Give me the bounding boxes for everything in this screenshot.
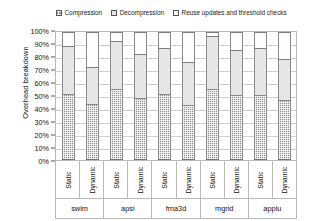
subcategory-row: StaticDynamic	[152, 161, 199, 199]
bar-group-mgrid	[200, 32, 248, 160]
bar-segment-decompression	[134, 55, 147, 99]
plot-area	[55, 31, 297, 161]
x-tick-label-text: Dynamic	[185, 166, 192, 193]
bar-swim-dynamic	[86, 32, 99, 160]
bar-segment-decompression	[86, 68, 99, 105]
bar-segment-decompression	[278, 60, 291, 101]
bar-segment-reuse	[230, 32, 243, 51]
y-tick-label: 20%	[35, 131, 49, 140]
bar-group-apsi	[104, 32, 152, 160]
x-tick-label-text: Static	[257, 171, 264, 189]
bar-segment-compression	[134, 99, 147, 160]
chart-legend: Compression Decompression Reuse updates …	[56, 6, 308, 20]
x-tick-label-dynamic: Dynamic	[177, 161, 200, 198]
y-tick-label: 10%	[35, 144, 49, 153]
category-group-applu: StaticDynamicapplu	[249, 161, 296, 218]
bar-applu-dynamic	[278, 32, 291, 160]
y-tick-label: 70%	[35, 66, 49, 75]
bar-fma3d-dynamic	[182, 32, 195, 160]
stacked-bar-chart: Compression Decompression Reuse updates …	[0, 0, 312, 221]
x-axis-category-band: StaticDynamicswimStaticDynamicapsiStatic…	[55, 161, 297, 219]
bar-segment-decompression	[110, 42, 123, 89]
x-tick-label-text: Static	[209, 171, 216, 189]
x-group-label-fma3d: fma3d	[152, 199, 199, 218]
bar-apsi-dynamic	[134, 32, 147, 160]
bar-segment-reuse	[62, 32, 75, 47]
x-tick-label-dynamic: Dynamic	[273, 161, 296, 198]
y-tick-label: 50%	[35, 92, 49, 101]
x-tick-label-static: Static	[104, 161, 128, 198]
x-tick-label-text: Static	[160, 171, 167, 189]
x-group-label-applu: applu	[249, 199, 296, 218]
bar-segment-reuse	[182, 32, 195, 63]
bar-segment-decompression	[230, 51, 243, 96]
bar-segment-reuse	[158, 32, 171, 49]
subcategory-row: StaticDynamic	[249, 161, 296, 199]
bar-group-swim	[56, 32, 104, 160]
subcategory-row: StaticDynamic	[201, 161, 248, 199]
bar-segment-compression	[182, 106, 195, 160]
legend-item-decompression: Decompression	[111, 10, 164, 16]
bar-segment-compression	[110, 90, 123, 160]
bar-applu-static	[254, 32, 267, 160]
legend-item-compression: Compression	[56, 10, 102, 16]
x-tick-label-static: Static	[56, 161, 80, 198]
bar-segment-compression	[62, 95, 75, 160]
x-tick-label-text: Static	[64, 171, 71, 189]
x-tick-label-text: Dynamic	[233, 166, 240, 193]
bar-segment-decompression	[158, 49, 171, 95]
bar-mgrid-dynamic	[230, 32, 243, 160]
bar-segment-reuse	[278, 32, 291, 60]
x-group-label-apsi: apsi	[104, 199, 151, 218]
subcategory-row: StaticDynamic	[56, 161, 103, 199]
x-group-label-mgrid: mgrid	[201, 199, 248, 218]
bar-swim-static	[62, 32, 75, 160]
legend-label-compression: Compression	[65, 10, 103, 16]
x-tick-label-dynamic: Dynamic	[225, 161, 248, 198]
bar-group-applu	[248, 32, 296, 160]
y-tick-label: 100%	[31, 27, 49, 36]
x-tick-label-text: Dynamic	[136, 166, 143, 193]
legend-label-reuse: Reuse updates and threshold checks	[182, 10, 287, 16]
y-tick-label: 90%	[35, 40, 49, 49]
y-tick-label: 40%	[35, 105, 49, 114]
bar-segment-decompression	[182, 63, 195, 107]
plot-area-wrapper	[55, 31, 297, 161]
bar-segment-compression	[254, 96, 267, 160]
x-tick-label-text: Static	[112, 171, 119, 189]
bar-segment-compression	[206, 90, 219, 160]
category-group-apsi: StaticDynamicapsi	[104, 161, 152, 218]
category-group-mgrid: StaticDynamicmgrid	[201, 161, 249, 218]
bar-segment-reuse	[86, 32, 99, 68]
category-group-swim: StaticDynamicswim	[56, 161, 104, 218]
legend-swatch-reuse-icon	[173, 10, 179, 16]
bar-segment-reuse	[110, 32, 123, 42]
y-tick-label: 30%	[35, 118, 49, 127]
category-group-fma3d: StaticDynamicfma3d	[152, 161, 200, 218]
bar-group-fma3d	[152, 32, 200, 160]
x-tick-label-static: Static	[201, 161, 225, 198]
x-tick-label-static: Static	[249, 161, 273, 198]
x-tick-label-text: Dynamic	[88, 166, 95, 193]
y-tick-label: 0%	[39, 157, 49, 166]
bar-fma3d-static	[158, 32, 171, 160]
x-tick-label-text: Dynamic	[281, 166, 288, 193]
bar-apsi-static	[110, 32, 123, 160]
bar-groups	[56, 32, 296, 160]
y-tick-label: 60%	[35, 79, 49, 88]
y-axis-ticks: 100%90%80%70%60%50%40%30%20%10%0%	[0, 31, 55, 161]
bar-segment-decompression	[62, 47, 75, 94]
x-tick-label-static: Static	[152, 161, 176, 198]
legend-swatch-compression-icon	[56, 10, 62, 16]
legend-label-decompression: Decompression	[120, 10, 164, 16]
bar-segment-decompression	[254, 49, 267, 96]
bar-segment-compression	[278, 101, 291, 160]
x-tick-label-dynamic: Dynamic	[128, 161, 151, 198]
bar-segment-decompression	[206, 37, 219, 89]
subcategory-row: StaticDynamic	[104, 161, 151, 199]
legend-item-reuse: Reuse updates and threshold checks	[173, 10, 287, 16]
y-tick-label: 80%	[35, 53, 49, 62]
x-tick-label-dynamic: Dynamic	[80, 161, 103, 198]
bar-segment-compression	[230, 96, 243, 160]
bar-segment-compression	[86, 105, 99, 160]
